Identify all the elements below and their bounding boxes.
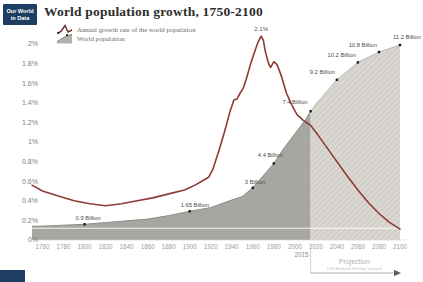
y-axis-tick-label: 0.2% [22,217,38,224]
population-value-label: 10.2 Billion [328,52,356,58]
data-point-marker [336,79,338,81]
projection-label: Projection [339,258,370,266]
x-axis-tick-label: 2040 [330,243,345,250]
y-axis-tick-label: 0.8% [22,158,38,165]
data-point-marker [189,210,191,212]
population-value-label: 7.4 Billion [282,99,307,105]
x-axis-tick-label: 1820 [99,243,114,250]
x-axis-tick-label: 1800 [78,243,93,250]
x-axis-tick-label: 1840 [120,243,135,250]
x-axis-tick-label: 2080 [372,243,387,250]
data-point-marker [399,44,401,46]
x-axis-tick-label: 1960 [246,243,261,250]
population-value-label: 4.4 Billion [258,152,283,158]
projection-start-year-label: 2015 [295,251,310,258]
footer-logo-cropped [0,270,25,282]
x-axis-tick-label: 1760 [35,243,50,250]
population-area-historical [32,111,311,240]
data-point-marker [309,110,311,112]
data-point-marker [83,223,85,225]
data-point-marker [273,162,275,164]
x-axis-tick-label: 1940 [225,243,240,250]
y-axis-tick-label: 0.4% [22,197,38,204]
x-axis-tick-label: 2060 [351,243,366,250]
data-point-marker [252,187,254,189]
y-axis-tick-label: 1.6% [22,80,38,87]
x-axis-tick-label: 2100 [393,243,408,250]
y-axis-tick-label: 1% [28,138,38,145]
population-value-label: 11.2 Billion [393,34,421,40]
projection-arrow-head-icon [394,270,401,276]
population-value-label: 9.2 Billion [310,69,335,75]
x-axis-tick-label: 1920 [204,243,219,250]
chart-figure: Our World in Data World population growt… [0,0,423,282]
population-value-label: 10.8 Billion [349,42,377,48]
projection-sublabel: (UN Medium Fertility Variant) [327,266,383,271]
x-axis-tick-label: 1780 [56,243,71,250]
chart-canvas: 2%1.8%1.6%1.4%1.2%1%0.8%0.6%0.4%0.2%0%17… [0,0,423,282]
x-axis-tick-label: 2000 [288,243,303,250]
y-axis-tick-label: 1.2% [22,119,38,126]
x-axis-tick-label: 1900 [183,243,198,250]
y-axis-tick-label: 0.6% [22,178,38,185]
y-axis-tick-label: 1.4% [22,99,38,106]
data-point-marker [357,61,359,63]
x-axis-tick-label: 1980 [267,243,282,250]
x-axis-tick-label: 2020 [309,243,324,250]
y-axis-tick-label: 2% [28,40,38,47]
population-value-label: 3 Billion [245,179,265,185]
population-value-label: 0.9 Billion [76,215,101,221]
x-axis-tick-label: 1880 [162,243,177,250]
peak-growth-label: 2.1% [254,25,269,32]
y-axis-tick-label: 1.8% [22,60,38,67]
data-point-marker [378,51,380,53]
x-axis-tick-label: 1860 [141,243,156,250]
population-value-label: 1.65 Billion [181,202,209,208]
